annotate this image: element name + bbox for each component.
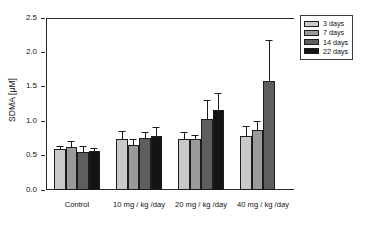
y-axis-title: SDMA [µM] bbox=[7, 40, 17, 160]
bar-item bbox=[213, 18, 225, 190]
error-bar-cap bbox=[130, 139, 137, 140]
y-axis-tick-label: 0.5 bbox=[0, 150, 37, 159]
legend: 3 days7 days14 days22 days bbox=[300, 15, 353, 60]
bar-item bbox=[89, 18, 101, 190]
error-bar bbox=[60, 147, 61, 149]
error-bar-cap bbox=[68, 141, 75, 142]
error-bar-cap bbox=[153, 127, 160, 128]
bar-item bbox=[77, 18, 89, 190]
y-axis-tick-label: 1.0 bbox=[0, 116, 37, 125]
bar-item bbox=[240, 18, 252, 190]
bar-item bbox=[190, 18, 202, 190]
error-bar bbox=[71, 142, 72, 147]
legend-label: 7 days bbox=[323, 28, 344, 37]
error-bar-cap bbox=[215, 93, 222, 94]
legend-label: 22 days bbox=[323, 47, 348, 56]
bar-group bbox=[54, 18, 100, 190]
bar-item bbox=[139, 18, 151, 190]
error-bar-cap bbox=[91, 148, 98, 149]
y-axis-tick-mark bbox=[41, 155, 45, 156]
y-axis-tick-mark bbox=[41, 190, 45, 191]
bar bbox=[252, 130, 264, 190]
x-axis-tick-label: 40 mg / kg /day bbox=[232, 200, 294, 209]
error-bar bbox=[145, 133, 146, 138]
y-axis-tick-mark bbox=[41, 86, 45, 87]
bars-layer bbox=[46, 18, 294, 190]
legend-label: 14 days bbox=[323, 38, 348, 47]
bar bbox=[116, 139, 128, 190]
x-axis-tick-label: Control bbox=[46, 200, 108, 209]
error-bar-cap bbox=[118, 131, 125, 132]
error-bar-cap bbox=[56, 146, 63, 147]
error-bar bbox=[257, 122, 258, 130]
bar bbox=[213, 110, 225, 190]
bar bbox=[77, 152, 89, 190]
bar bbox=[190, 139, 202, 190]
error-bar bbox=[269, 41, 270, 81]
legend-item: 22 days bbox=[304, 47, 348, 56]
bar-item bbox=[54, 18, 66, 190]
bar-item bbox=[128, 18, 140, 190]
bar-chart-figure: SDMA [µM] 0.00.51.01.52.02.5 Control10 m… bbox=[0, 0, 367, 227]
x-axis-tick-label: 20 mg / kg /day bbox=[170, 200, 232, 209]
bar-item bbox=[116, 18, 128, 190]
y-axis-tick-label: 0.0 bbox=[0, 185, 37, 194]
error-bar bbox=[184, 133, 185, 139]
bar-item bbox=[66, 18, 78, 190]
error-bar bbox=[246, 127, 247, 136]
bar-group bbox=[116, 18, 162, 190]
error-bar bbox=[207, 101, 208, 119]
error-bar bbox=[195, 136, 196, 139]
bar-item bbox=[263, 18, 275, 190]
bar bbox=[263, 81, 275, 190]
error-bar bbox=[218, 94, 219, 110]
legend-item: 7 days bbox=[304, 29, 348, 38]
error-bar-cap bbox=[180, 132, 187, 133]
bar-group bbox=[178, 18, 224, 190]
bar-item bbox=[178, 18, 190, 190]
legend-swatch bbox=[304, 48, 319, 55]
error-bar-cap bbox=[203, 100, 210, 101]
bar-item bbox=[201, 18, 213, 190]
bar-item bbox=[151, 18, 163, 190]
error-bar-cap bbox=[79, 146, 86, 147]
bar bbox=[66, 147, 78, 190]
error-bar bbox=[83, 147, 84, 153]
bar bbox=[240, 136, 252, 190]
error-bar bbox=[122, 132, 123, 139]
bar bbox=[54, 149, 66, 190]
legend-item: 14 days bbox=[304, 38, 348, 47]
bar bbox=[151, 136, 163, 190]
bar bbox=[89, 151, 101, 190]
y-axis-tick-label: 2.5 bbox=[0, 13, 37, 22]
legend-swatch bbox=[304, 39, 319, 46]
y-axis-tick-label: 1.5 bbox=[0, 81, 37, 90]
x-axis-labels: Control10 mg / kg /day20 mg / kg /day40 … bbox=[46, 200, 294, 214]
legend-swatch bbox=[304, 21, 319, 28]
bar bbox=[201, 119, 213, 190]
error-bar bbox=[94, 149, 95, 150]
bar-item bbox=[252, 18, 264, 190]
error-bar bbox=[133, 140, 134, 145]
error-bar-cap bbox=[254, 121, 261, 122]
legend-label: 3 days bbox=[323, 19, 344, 28]
y-axis-tick-mark bbox=[41, 121, 45, 122]
legend-swatch bbox=[304, 30, 319, 37]
y-axis-tick-mark bbox=[41, 18, 45, 19]
y-axis-tick-mark bbox=[41, 52, 45, 53]
bar bbox=[178, 139, 190, 190]
legend-item: 3 days bbox=[304, 20, 348, 29]
error-bar-cap bbox=[265, 40, 272, 41]
bar bbox=[139, 138, 151, 190]
error-bar bbox=[156, 128, 157, 136]
error-bar-cap bbox=[141, 132, 148, 133]
error-bar-cap bbox=[242, 126, 249, 127]
bar bbox=[128, 145, 140, 190]
x-axis-tick-label: 10 mg / kg /day bbox=[108, 200, 170, 209]
y-axis-tick-label: 2.0 bbox=[0, 47, 37, 56]
bar-group bbox=[240, 18, 286, 190]
error-bar-cap bbox=[192, 135, 199, 136]
